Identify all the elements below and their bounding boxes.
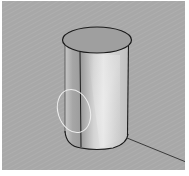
3d-viewport[interactable]: Perspective viewport <box>2 1 185 170</box>
cylinder-object[interactable] <box>63 27 132 150</box>
cylinder-top-cap[interactable] <box>63 27 132 53</box>
viewport-canvas[interactable] <box>2 1 185 170</box>
